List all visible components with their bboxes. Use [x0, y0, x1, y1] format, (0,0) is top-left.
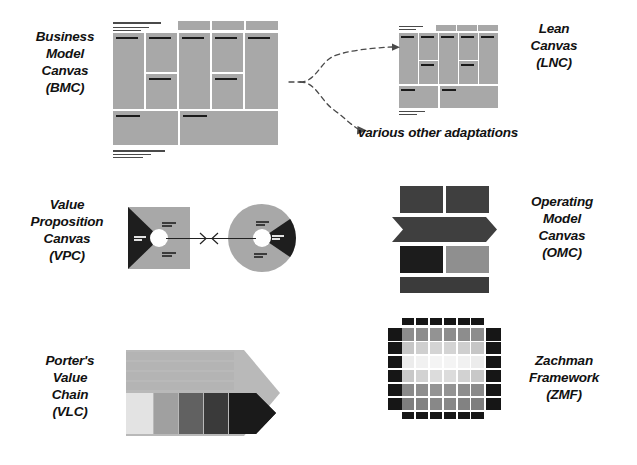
zmf-interior-cell [430, 356, 443, 369]
zmf-column-footer [444, 412, 457, 419]
zmf-column-header [458, 318, 471, 325]
zmf-interior-cell [416, 356, 429, 369]
zmf-column-footer [458, 412, 471, 419]
zmf-interior-cell [471, 384, 484, 397]
zmf-interior-cell [430, 398, 443, 411]
zmf-interior-cell [430, 342, 443, 355]
zmf-row-header-left [388, 398, 403, 411]
zmf-interior-cell [444, 356, 457, 369]
zmf-interior-cell [444, 398, 457, 411]
zmf-interior-cell [402, 398, 415, 411]
zmf-interior-cell [444, 342, 457, 355]
zmf-label: Zachman Framework (ZMF) [508, 352, 620, 403]
zmf-interior-cell [471, 356, 484, 369]
zmf-interior-cell [471, 370, 484, 383]
zmf-row-header-right [486, 370, 501, 383]
zmf-row-header-left [388, 384, 403, 397]
zmf-interior-cell [402, 342, 415, 355]
zmf-row-header-right [486, 398, 501, 411]
zmf-column-header [416, 318, 429, 325]
zmf-interior-cell [458, 342, 471, 355]
zmf-column-header [430, 318, 443, 325]
zmf-interior-cell [458, 356, 471, 369]
figure-canvas: Business Model Canvas (BMC) Lean Canvas … [0, 0, 637, 465]
zmf-interior-cell [402, 356, 415, 369]
zmf-row-header-left [388, 342, 403, 355]
zmf-column-header [444, 318, 457, 325]
zmf-row-header-left [388, 356, 403, 369]
zmf-column-footer [471, 412, 484, 419]
zmf-interior-cell [402, 384, 415, 397]
zmf-interior-cell [444, 370, 457, 383]
zmf-interior-cell [444, 384, 457, 397]
zmf-row-header-right [486, 384, 501, 397]
zmf-interior-cell [430, 370, 443, 383]
zmf-column-footer [416, 412, 429, 419]
zmf-interior-cell [402, 370, 415, 383]
zmf-interior-cell [458, 398, 471, 411]
zmf-interior-cell [458, 384, 471, 397]
zmf-interior-cell [458, 370, 471, 383]
zmf-interior-cell [402, 328, 415, 341]
zmf-column-footer [430, 412, 443, 419]
zmf-row-header-left [388, 328, 403, 341]
zmf-row-header-right [486, 342, 501, 355]
zmf-interior-cell [416, 370, 429, 383]
vlc-label: Porter's Value Chain (VLC) [22, 352, 118, 420]
zmf-column-header [471, 318, 484, 325]
zmf-interior-cell [416, 328, 429, 341]
zmf-row-header-left [388, 370, 403, 383]
zmf-interior-cell [471, 328, 484, 341]
zmf-row-header-right [486, 356, 501, 369]
zmf-interior-cell [444, 328, 457, 341]
zmf-column-header [402, 318, 415, 325]
zmf-interior-cell [430, 328, 443, 341]
zmf-row-header-right [486, 328, 501, 341]
zmf-column-footer [402, 412, 415, 419]
zmf-interior-cell [458, 328, 471, 341]
zmf-interior-cell [416, 384, 429, 397]
zmf-interior-cell [471, 342, 484, 355]
zmf-interior-cell [416, 398, 429, 411]
zmf-interior-cell [416, 342, 429, 355]
zmf-interior-cell [430, 384, 443, 397]
zmf-interior-cell [471, 398, 484, 411]
